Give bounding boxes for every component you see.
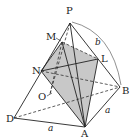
label-O: O xyxy=(38,91,46,102)
label-M: M xyxy=(46,31,56,42)
label-edge-b: b xyxy=(95,37,101,47)
label-P: P xyxy=(66,5,73,16)
label-B: B xyxy=(122,85,129,96)
label-A: A xyxy=(80,128,89,138)
label-side-AB: a xyxy=(105,105,110,115)
pyramid-diagram: P M L N B O D A a a b xyxy=(0,0,132,138)
label-L: L xyxy=(101,53,108,64)
label-D: D xyxy=(6,113,14,124)
label-side-DA: a xyxy=(48,123,53,133)
label-N: N xyxy=(32,65,41,76)
